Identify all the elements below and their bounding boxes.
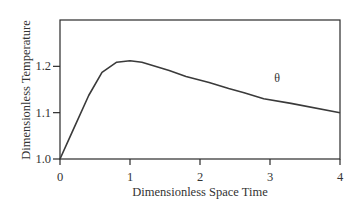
x-tick-label: 4: [337, 170, 344, 184]
x-axis-ticks: 01234: [57, 159, 344, 184]
plot-series: [60, 61, 340, 159]
x-tick-label: 0: [57, 170, 63, 184]
plot-frame: [60, 20, 340, 159]
y-tick-label: 1.0: [35, 152, 51, 166]
y-tick-label: 1.1: [35, 106, 51, 120]
theta-series-line: [60, 61, 340, 159]
x-tick-label: 2: [197, 170, 203, 184]
x-tick-label: 3: [267, 170, 273, 184]
y-tick-label: 1.2: [35, 59, 51, 73]
x-axis-title: Dimensionless Space Time: [132, 185, 268, 199]
x-tick-label: 1: [127, 170, 133, 184]
y-axis-title: Dimensionless Temperature: [19, 20, 33, 160]
line-chart: 1.01.11.2 01234 θ Dimensionless Space Ti…: [0, 0, 360, 205]
y-axis-ticks: 1.01.11.2: [35, 59, 60, 166]
plot-area-border: [60, 20, 340, 159]
series-annotation-theta: θ: [274, 71, 280, 85]
